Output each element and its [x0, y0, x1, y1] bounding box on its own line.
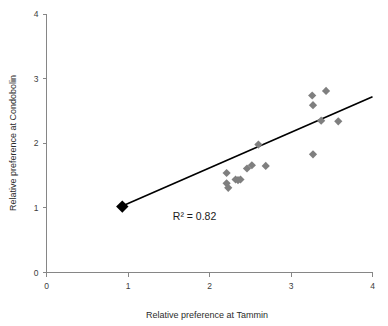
y-axis-tick-label: 2 — [34, 138, 39, 148]
x-axis-tick-label: 4 — [370, 281, 375, 291]
y-axis-title: Relative preference at Condobolin — [8, 75, 18, 211]
y-axis-tick-label: 4 — [34, 9, 39, 19]
y-axis: 01234 — [34, 9, 47, 277]
x-axis-tick-label: 3 — [289, 281, 294, 291]
trendline — [122, 97, 372, 206]
data-point-marker — [308, 91, 316, 99]
y-axis-tick-label: 1 — [34, 203, 39, 213]
x-axis-tick-label: 0 — [44, 281, 49, 291]
r-squared-label: R² = 0.82 — [173, 210, 217, 222]
data-point-marker — [309, 101, 317, 109]
chart-annotations: R² = 0.82 — [173, 210, 217, 222]
x-axis-tick-label: 2 — [207, 281, 212, 291]
trendline-path — [122, 97, 372, 206]
x-axis-title: Relative preference at Tammin — [146, 310, 268, 320]
x-axis: 01234 — [44, 273, 375, 291]
x-axis-tick-label: 1 — [126, 281, 131, 291]
data-point-marker — [262, 162, 270, 170]
data-point-marker — [334, 117, 342, 125]
scatter-chart: 01234 01234 R² = 0.82 Relative preferenc… — [0, 0, 388, 326]
data-point-marker — [116, 200, 128, 212]
data-point-marker — [322, 87, 330, 95]
y-axis-tick-label: 0 — [34, 268, 39, 278]
plot-area: 01234 01234 R² = 0.82 Relative preferenc… — [0, 0, 388, 326]
data-point-marker — [309, 150, 317, 158]
y-axis-tick-label: 3 — [34, 74, 39, 84]
data-point-marker — [223, 169, 231, 177]
